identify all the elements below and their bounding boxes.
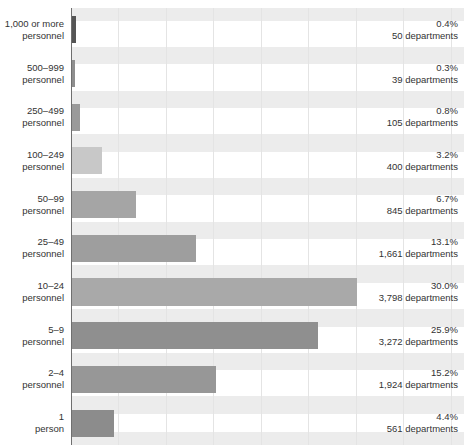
value-percent: 0.3%: [392, 62, 458, 74]
y-axis-line: [71, 8, 72, 445]
value-label: 0.3%39 departments: [392, 62, 458, 86]
category-label-line1: 50–99: [0, 193, 64, 205]
value-count: 1,924 departments: [379, 379, 458, 391]
category-label-line2: personnel: [0, 336, 64, 348]
bar: [72, 322, 318, 349]
category-label-line1: 1: [0, 411, 64, 423]
category-label-line2: person: [0, 423, 64, 435]
value-label: 15.2%1,924 departments: [379, 367, 458, 391]
value-count: 50 departments: [392, 30, 458, 42]
table-row: 10–24personnel30.0%3,798 departments: [0, 270, 464, 314]
category-label: 1person: [0, 411, 64, 435]
table-row: 2–4personnel15.2%1,924 departments: [0, 358, 464, 402]
value-percent: 4.4%: [387, 411, 458, 423]
category-label-line1: 250–499: [0, 105, 64, 117]
value-count: 400 departments: [387, 161, 458, 173]
bar: [72, 60, 75, 87]
category-label-line2: personnel: [0, 74, 64, 86]
table-row: 500–999personnel0.3%39 departments: [0, 52, 464, 96]
bar: [72, 191, 136, 218]
bar: [72, 104, 80, 131]
category-label-line1: 1,000 or more: [0, 18, 64, 30]
value-percent: 30.0%: [379, 280, 458, 292]
value-percent: 13.1%: [379, 236, 458, 248]
bar: [72, 410, 114, 437]
value-percent: 0.8%: [387, 105, 458, 117]
value-count: 1,661 departments: [379, 248, 458, 260]
category-label-line2: personnel: [0, 379, 64, 391]
category-label: 1,000 or morepersonnel: [0, 18, 64, 42]
table-row: 5–9personnel25.9%3,272 departments: [0, 314, 464, 358]
value-percent: 3.2%: [387, 149, 458, 161]
table-row: 1,000 or morepersonnel0.4%50 departments: [0, 8, 464, 52]
value-label: 6.7%845 departments: [387, 193, 458, 217]
bar: [72, 16, 76, 43]
bar: [72, 278, 357, 305]
value-label: 4.4%561 departments: [387, 411, 458, 435]
category-label: 500–999personnel: [0, 62, 64, 86]
value-label: 0.8%105 departments: [387, 105, 458, 129]
category-label-line2: personnel: [0, 292, 64, 304]
category-label-line1: 500–999: [0, 62, 64, 74]
category-label-line2: personnel: [0, 30, 64, 42]
category-label: 2–4personnel: [0, 367, 64, 391]
value-label: 0.4%50 departments: [392, 18, 458, 42]
category-label: 250–499personnel: [0, 105, 64, 129]
category-label-line1: 100–249: [0, 149, 64, 161]
value-count: 845 departments: [387, 205, 458, 217]
category-label-line2: personnel: [0, 161, 64, 173]
value-percent: 0.4%: [392, 18, 458, 30]
table-row: 250–499personnel0.8%105 departments: [0, 95, 464, 139]
category-label: 10–24personnel: [0, 280, 64, 304]
category-label: 100–249personnel: [0, 149, 64, 173]
category-label-line1: 10–24: [0, 280, 64, 292]
value-percent: 15.2%: [379, 367, 458, 379]
value-label: 13.1%1,661 departments: [379, 236, 458, 260]
category-label-line1: 5–9: [0, 324, 64, 336]
value-count: 39 departments: [392, 74, 458, 86]
value-count: 105 departments: [387, 117, 458, 129]
value-label: 25.9%3,272 departments: [379, 324, 458, 348]
value-count: 561 departments: [387, 423, 458, 435]
category-label-line1: 2–4: [0, 367, 64, 379]
bar: [72, 147, 102, 174]
value-count: 3,272 departments: [379, 336, 458, 348]
category-label-line1: 25–49: [0, 236, 64, 248]
table-row: 1person4.4%561 departments: [0, 401, 464, 445]
bar: [72, 235, 196, 262]
value-count: 3,798 departments: [379, 292, 458, 304]
table-row: 50–99personnel6.7%845 departments: [0, 183, 464, 227]
category-label-line2: personnel: [0, 248, 64, 260]
category-label-line2: personnel: [0, 205, 64, 217]
value-label: 3.2%400 departments: [387, 149, 458, 173]
category-label: 5–9personnel: [0, 324, 64, 348]
value-percent: 25.9%: [379, 324, 458, 336]
category-label: 25–49personnel: [0, 236, 64, 260]
table-row: 100–249personnel3.2%400 departments: [0, 139, 464, 183]
bar-chart: 1,000 or morepersonnel0.4%50 departments…: [0, 0, 464, 448]
category-label-line2: personnel: [0, 117, 64, 129]
table-row: 25–49personnel13.1%1,661 departments: [0, 227, 464, 271]
value-label: 30.0%3,798 departments: [379, 280, 458, 304]
bar: [72, 366, 216, 393]
category-label: 50–99personnel: [0, 193, 64, 217]
value-percent: 6.7%: [387, 193, 458, 205]
